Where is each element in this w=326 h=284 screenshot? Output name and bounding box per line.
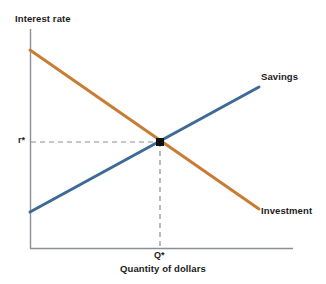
investment-curve-label: Investment (261, 205, 312, 216)
x-axis-title: Quantity of dollars (0, 263, 326, 274)
chart-plot-area (0, 0, 326, 284)
savings-curve-label: Savings (261, 71, 298, 82)
interest-rate-loanable-funds-chart: Interest rate Quantity of dollars Saving… (0, 0, 326, 284)
equilibrium-point-marker (156, 138, 164, 146)
x-axis-tick-equilibrium-quantity: Q* (154, 250, 165, 260)
investment-curve (30, 50, 259, 209)
y-axis-tick-equilibrium-rate: r* (18, 135, 25, 145)
y-axis-title: Interest rate (15, 13, 71, 24)
savings-curve (30, 87, 259, 212)
